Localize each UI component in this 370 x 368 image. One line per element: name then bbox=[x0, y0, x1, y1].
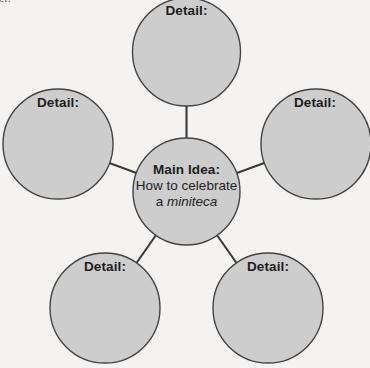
detail-circle-right[interactable] bbox=[261, 89, 370, 199]
detail-circle-top[interactable] bbox=[133, 0, 241, 106]
idea-web-diagram: er. Detail: Detail: Detail: Detail: Deta… bbox=[0, 0, 370, 368]
diagram-canvas bbox=[0, 0, 370, 368]
detail-circle-bottom-left[interactable] bbox=[50, 253, 160, 363]
main-idea-circle[interactable] bbox=[133, 138, 240, 245]
detail-circle-bottom-right[interactable] bbox=[213, 253, 323, 363]
detail-circle-left[interactable] bbox=[3, 89, 113, 199]
